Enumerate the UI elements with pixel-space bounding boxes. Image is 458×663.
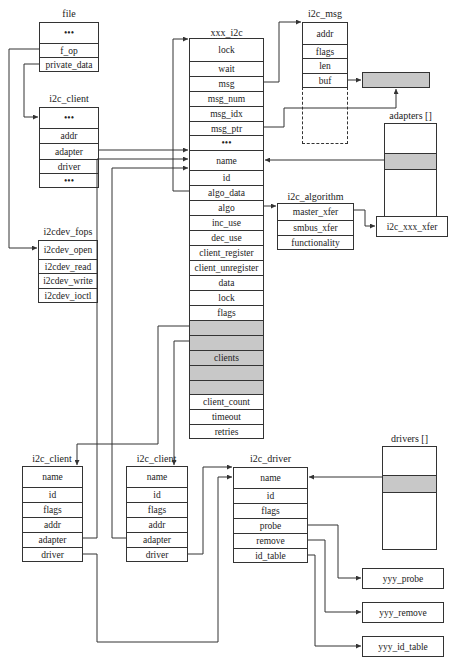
- i2c-client-2-field-flags: flags: [127, 502, 187, 517]
- file-struct: ••• f_op private_data: [39, 22, 99, 72]
- yyy-probe-func: yyy_probe: [362, 568, 444, 589]
- i2c-client-top-field-addr: addr: [40, 128, 98, 143]
- xxx-i2c-field-client-register: client_register: [190, 245, 263, 260]
- i2c-client-2-field-addr: addr: [127, 517, 187, 532]
- xxx-i2c-field-retries: retries: [190, 424, 263, 439]
- i2c-client-top-field-driver: driver: [40, 159, 98, 173]
- i2c-driver-struct: name id flags probe remove id_table: [233, 467, 308, 563]
- i2c-client-2-field-id: id: [127, 487, 187, 502]
- i2c-client-1-field-adapter: adapter: [23, 532, 82, 547]
- i2c-driver-field-name: name: [234, 468, 307, 488]
- yyy-id-table-func: yyy_id_table: [362, 636, 444, 657]
- xxx-i2c-field-client-unregister: client_unregister: [190, 260, 263, 275]
- i2c-client-1-field-id: id: [23, 487, 82, 502]
- xxx-i2c-field-dec-use: dec_use: [190, 230, 263, 245]
- i2c-driver-field-id: id: [234, 488, 307, 503]
- i2cdev-fops-field-write: i2cdev_write: [39, 273, 97, 288]
- drivers-title: drivers []: [382, 433, 437, 444]
- xxx-i2c-field-algo: algo: [190, 200, 263, 215]
- i2c-client-1-field-name: name: [23, 467, 82, 487]
- i2c-msg-field-flags: flags: [303, 44, 347, 58]
- xxx-i2c-field-id: id: [190, 170, 263, 185]
- xxx-i2c-field-algo-data: algo_data: [190, 185, 263, 200]
- drivers-entry: [383, 475, 436, 493]
- xxx-i2c-field-flags: flags: [190, 305, 263, 320]
- xxx-i2c-struct: lock wait msg msg_num msg_idx msg_ptr ••…: [189, 38, 264, 439]
- xxx-i2c-field-msg: msg: [190, 76, 263, 91]
- i2c-msg-struct: addr flags len buf: [302, 22, 348, 88]
- i2c-client-2-field-adapter: adapter: [127, 532, 187, 547]
- file-field-f-op: f_op: [40, 43, 98, 57]
- file-field-ellipsis: •••: [40, 23, 98, 43]
- i2c-msg-array-continuation: [302, 87, 348, 144]
- i2c-algorithm-struct: master_xfer smbus_xfer functionality: [277, 203, 354, 250]
- xxx-i2c-field-wait: wait: [190, 61, 263, 76]
- xxx-i2c-field-msg-ptr: msg_ptr: [190, 121, 263, 135]
- i2c-client-2-title: i2c_client: [126, 453, 187, 464]
- xxx-i2c-field-clients: clients: [190, 350, 263, 365]
- adapters-array: [384, 123, 437, 221]
- i2c-algorithm-title: i2c_algorithm: [277, 191, 354, 202]
- file-title: file: [39, 8, 99, 19]
- i2cdev-fops-field-ioctl: i2cdev_ioctl: [39, 288, 97, 303]
- xxx-i2c-field-msg-num: msg_num: [190, 91, 263, 106]
- xxx-i2c-field-ellipsis: •••: [190, 135, 263, 150]
- xxx-i2c-client-slot: [190, 320, 263, 335]
- i2c-driver-field-probe: probe: [234, 518, 307, 533]
- i2cdev-fops-field-read: i2cdev_read: [39, 259, 97, 273]
- i2c-driver-field-id-table: id_table: [234, 548, 307, 563]
- xxx-i2c-field-msg-idx: msg_idx: [190, 106, 263, 121]
- file-field-private-data: private_data: [40, 57, 98, 72]
- i2c-client-2-struct: name id flags addr adapter driver: [126, 466, 188, 562]
- adapters-entry: [385, 153, 436, 170]
- xxx-i2c-client-slot: [190, 380, 263, 394]
- xxx-i2c-field-lock2: lock: [190, 290, 263, 305]
- i2c-algorithm-field-master-xfer: master_xfer: [278, 204, 353, 220]
- i2c-msg-field-len: len: [303, 58, 347, 73]
- i2c-driver-field-remove: remove: [234, 533, 307, 548]
- i2c-client-1-field-addr: addr: [23, 517, 82, 532]
- xxx-i2c-field-client-count: client_count: [190, 394, 263, 409]
- xxx-i2c-field-timeout: timeout: [190, 409, 263, 424]
- xxx-i2c-client-slot: [190, 365, 263, 380]
- i2c-algorithm-field-smbus-xfer: smbus_xfer: [278, 220, 353, 235]
- xxx-i2c-client-slot: [190, 335, 263, 350]
- i2c-client-top-struct: ••• addr adapter driver •••: [39, 107, 99, 188]
- i2cdev-fops-field-open: i2cdev_open: [39, 241, 97, 259]
- xxx-i2c-field-name: name: [190, 150, 263, 170]
- i2c-client-top-field-adapter: adapter: [40, 143, 98, 159]
- i2cdev-fops-struct: i2cdev_open i2cdev_read i2cdev_write i2c…: [38, 240, 98, 303]
- i2c-xxx-xfer-func: i2c_xxx_xfer: [376, 216, 448, 237]
- i2c-msg-field-addr: addr: [303, 23, 347, 44]
- i2c-driver-title: i2c_driver: [233, 453, 308, 464]
- xxx-i2c-field-lock: lock: [190, 39, 263, 61]
- i2c-client-top-title: i2c_client: [39, 93, 99, 104]
- drivers-array: [382, 446, 437, 550]
- i2c-client-1-title: i2c_client: [22, 453, 82, 464]
- i2c-client-top-field-ellipsis2: •••: [40, 173, 98, 188]
- xxx-i2c-field-inc-use: inc_use: [190, 215, 263, 230]
- i2c-algorithm-field-functionality: functionality: [278, 235, 353, 250]
- i2c-driver-field-flags: flags: [234, 503, 307, 518]
- msg-buffer: [362, 72, 430, 88]
- yyy-remove-func: yyy_remove: [362, 602, 444, 623]
- i2c-client-top-field-ellipsis: •••: [40, 108, 98, 128]
- i2cdev-fops-title: i2cdev_fops: [38, 226, 98, 237]
- i2c-client-1-struct: name id flags addr adapter driver: [22, 466, 83, 562]
- xxx-i2c-title: xxx_i2c: [189, 27, 264, 38]
- i2c-client-1-field-flags: flags: [23, 502, 82, 517]
- xxx-i2c-field-data: data: [190, 275, 263, 290]
- i2c-msg-title: i2c_msg: [302, 8, 348, 19]
- i2c-msg-field-buf: buf: [303, 73, 347, 88]
- i2c-client-2-field-name: name: [127, 467, 187, 487]
- i2c-client-2-field-driver: driver: [127, 547, 187, 562]
- adapters-title: adapters []: [384, 110, 437, 121]
- i2c-client-1-field-driver: driver: [23, 547, 82, 562]
